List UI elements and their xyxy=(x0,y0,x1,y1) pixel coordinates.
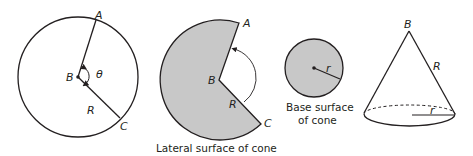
label-C: C xyxy=(120,120,128,133)
label-C: C xyxy=(264,117,272,130)
label-R: R xyxy=(229,98,237,111)
cone-right-slant xyxy=(409,31,455,114)
label-B: B xyxy=(208,74,216,87)
label-theta: θ xyxy=(96,68,103,81)
cone-base-back-edge xyxy=(364,105,455,114)
lateral-surface-figure: A B R C Lateral surface of cone xyxy=(156,17,277,154)
unfold-angle-arrow xyxy=(234,49,256,102)
lateral-surface-caption: Lateral surface of cone xyxy=(156,142,277,154)
label-A: A xyxy=(94,9,103,22)
radius-BA xyxy=(78,20,96,77)
center-point-B xyxy=(76,75,80,79)
full-circle-figure: A B θ R C xyxy=(18,9,138,137)
theta-angle-arc xyxy=(85,68,90,85)
base-surface-figure: r Base surface of cone xyxy=(285,39,354,126)
base-caption-line2: of cone xyxy=(298,114,337,126)
label-R: R xyxy=(433,60,441,73)
label-R: R xyxy=(87,104,95,117)
cone-base-front-edge xyxy=(364,114,455,126)
cone-left-slant xyxy=(364,31,409,113)
radius-BC xyxy=(78,77,120,118)
cone-figure: B R r xyxy=(364,18,455,126)
label-B: B xyxy=(404,18,412,31)
label-A: A xyxy=(242,17,251,30)
base-caption-line1: Base surface xyxy=(286,101,354,113)
label-B: B xyxy=(66,71,74,84)
cone-surface-diagram: A B θ R C A B R C Lateral surface of con… xyxy=(0,0,473,156)
